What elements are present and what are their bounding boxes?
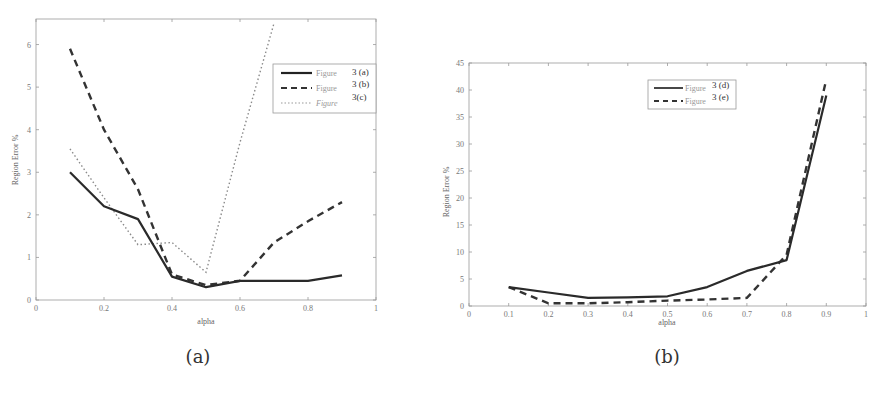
chart-b-caption: (b) (654, 346, 680, 367)
y-tick-label: 0 (27, 296, 31, 305)
y-tick-label: 2 (27, 211, 31, 220)
y-tick-label: 30 (456, 140, 464, 149)
chart-a-legend: Figure 3 (a) Figure 3 (b) Figure 3(c) (273, 64, 376, 113)
y-tick-label: 10 (456, 248, 464, 257)
y-tick-label: 20 (456, 194, 464, 203)
y-tick-label: 4 (27, 126, 31, 135)
legend-a-tag-1: 3 (a) (352, 67, 369, 77)
series-line-solid (70, 172, 342, 287)
y-tick-label: 3 (27, 168, 31, 177)
legend-a-word-1: Figure (316, 69, 337, 78)
x-tick-label: 0.8 (782, 310, 792, 319)
legend-b-word-1: Figure (685, 84, 706, 93)
y-tick-label: 1 (27, 253, 31, 262)
chart-b-legend: Figure 3 (d) Figure 3 (e) (648, 80, 736, 109)
legend-b-tag-1: 3 (d) (712, 80, 729, 90)
x-tick-label: 1 (864, 310, 868, 319)
chart-a-caption: (a) (186, 346, 211, 367)
series-line-dashed (509, 79, 827, 303)
x-tick-label: 1 (374, 304, 378, 313)
series-line-solid (509, 95, 827, 298)
x-tick-label: 0.1 (504, 310, 514, 319)
chart-a-ylabel: Region Error % (11, 134, 20, 185)
y-tick-label: 5 (460, 275, 464, 284)
chart-a-ticks: 00.20.40.60.810123456 (27, 19, 378, 313)
x-tick-label: 0.4 (623, 310, 633, 319)
y-tick-label: 25 (456, 167, 464, 176)
legend-a-tag-3: 3(c) (352, 92, 367, 102)
legend-a-word-3: Figure (315, 99, 338, 108)
series-line-dotted (70, 23, 274, 272)
chart-b-xlabel: alpha (658, 318, 676, 327)
x-tick-label: 0.3 (583, 310, 593, 319)
y-tick-label: 6 (27, 41, 31, 50)
figure: 00.20.40.60.810123456 alpha Region Error… (0, 0, 881, 396)
legend-b-tag-2: 3 (e) (712, 92, 729, 102)
x-tick-label: 0 (467, 310, 471, 319)
chart-a-plot-frame (36, 19, 376, 300)
legend-a-tag-2: 3 (b) (352, 79, 369, 89)
chart-b: 00.10.20.30.40.50.60.70.80.9105101520253… (442, 59, 868, 367)
x-tick-label: 0.7 (742, 310, 752, 319)
y-tick-label: 5 (27, 83, 31, 92)
x-tick-label: 0 (34, 304, 38, 313)
y-tick-label: 15 (456, 221, 464, 230)
x-tick-label: 0.2 (543, 310, 553, 319)
chart-b-ylabel: Region Error % (442, 166, 451, 217)
y-tick-label: 45 (456, 59, 464, 68)
x-tick-label: 0.8 (303, 304, 313, 313)
chart-a-xlabel: alpha (197, 317, 215, 326)
x-tick-label: 0.4 (167, 304, 177, 313)
x-tick-label: 0.9 (821, 310, 831, 319)
chart-a: 00.20.40.60.810123456 alpha Region Error… (11, 19, 378, 367)
y-tick-label: 35 (456, 113, 464, 122)
chart-b-series (509, 79, 827, 303)
x-tick-label: 0.6 (702, 310, 712, 319)
chart-a-series (70, 23, 342, 287)
y-tick-label: 0 (460, 302, 464, 311)
x-tick-label: 0.6 (235, 304, 245, 313)
legend-b-word-2: Figure (685, 97, 706, 106)
y-tick-label: 40 (456, 86, 464, 95)
legend-a-word-2: Figure (316, 84, 337, 93)
x-tick-label: 0.2 (99, 304, 109, 313)
